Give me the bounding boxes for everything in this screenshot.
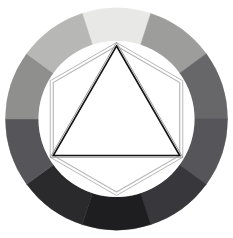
ring-segment-top (82, 8, 151, 45)
value-wheel-canvas (0, 0, 233, 238)
inner-white-disc (39, 41, 195, 197)
value-wheel-figure: Tonal Value Wheel Circular grayscale val… (0, 0, 233, 238)
ring-segment-bottom (82, 193, 151, 230)
